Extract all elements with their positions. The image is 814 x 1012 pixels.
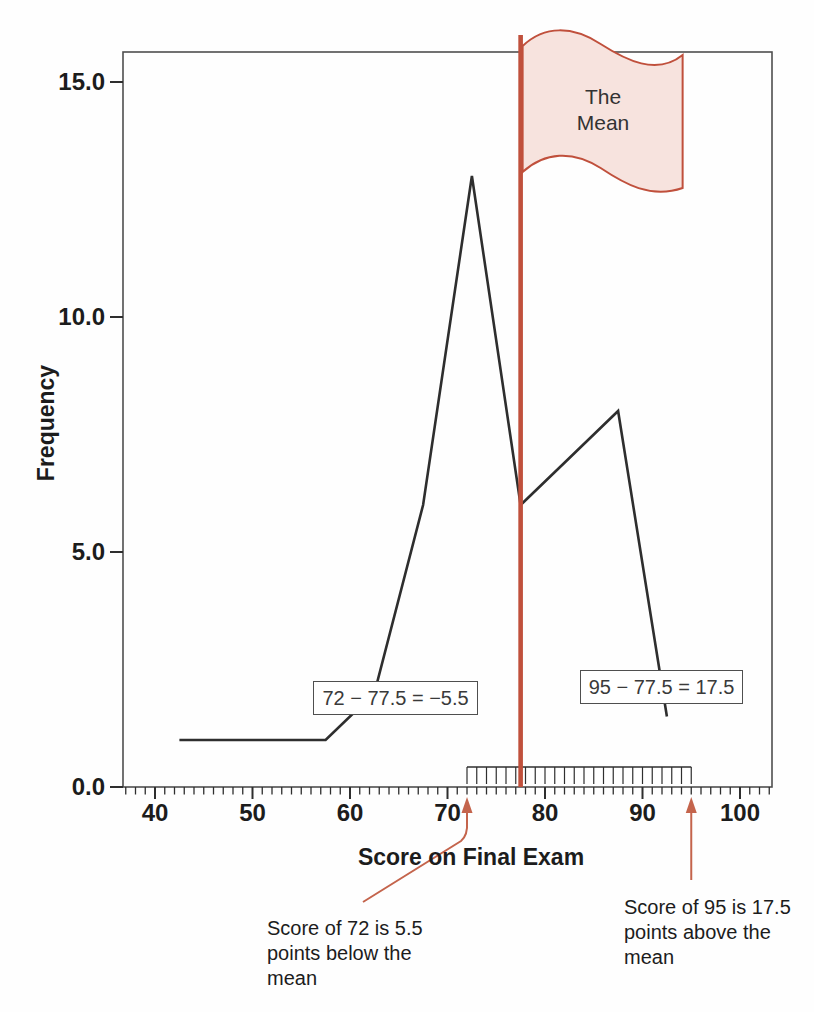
x-axis-title: Score on Final Exam — [358, 844, 584, 871]
x-tick-label: 40 — [142, 799, 169, 826]
x-tick-label: 50 — [239, 799, 266, 826]
statistics-figure: 4050607080901000.05.010.015.0 Frequency … — [0, 0, 814, 1012]
deviation-box-below-mean: 72 − 77.5 = −5.5 — [313, 681, 478, 715]
x-tick-label: 60 — [337, 799, 364, 826]
x-tick-label: 90 — [629, 799, 656, 826]
x-tick-label: 80 — [532, 799, 559, 826]
frequency-polygon-line — [179, 176, 667, 740]
note-below-mean: Score of 72 is 5.5 points below the mean — [267, 916, 423, 991]
mean-flag-label: The Mean — [577, 84, 630, 136]
arrow-head-score-95 — [686, 797, 697, 813]
y-tick-label: 10.0 — [58, 303, 105, 330]
y-tick-label: 15.0 — [58, 68, 105, 95]
x-tick-label: 70 — [434, 799, 461, 826]
arrow-head-score-72 — [462, 797, 473, 813]
y-tick-label: 0.0 — [72, 773, 105, 800]
x-tick-label: 100 — [720, 799, 760, 826]
deviation-box-above-mean: 95 − 77.5 = 17.5 — [580, 670, 743, 704]
y-tick-label: 5.0 — [72, 538, 105, 565]
note-above-mean: Score of 95 is 17.5 points above the mea… — [624, 895, 791, 970]
y-axis-title: Frequency — [33, 365, 60, 481]
mean-line — [518, 35, 523, 787]
